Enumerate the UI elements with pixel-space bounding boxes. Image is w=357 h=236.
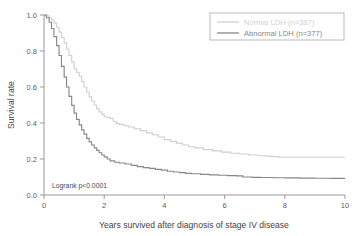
y-tick-label: 0.6 xyxy=(27,83,37,92)
x-tick-label: 10 xyxy=(341,201,349,210)
x-tick-label: 0 xyxy=(42,201,46,210)
x-axis-title: Years survived after diagnosis of stage … xyxy=(99,220,289,230)
chart-legend: Normal LDH (n=387) Abnormal LDH (n=377) xyxy=(210,13,344,40)
x-tick-label: 8 xyxy=(283,201,287,210)
y-tick-label: 0.0 xyxy=(27,191,37,200)
y-axis-title: Survival rate xyxy=(6,81,16,129)
legend-label-normal-ldh: Normal LDH (n=387) xyxy=(244,18,315,27)
x-axis-ticks: 0246810 xyxy=(42,195,349,210)
y-axis-ticks: 0.00.20.40.60.81.0 xyxy=(27,11,44,200)
x-tick-label: 6 xyxy=(223,201,227,210)
y-tick-label: 0.4 xyxy=(27,119,37,128)
y-tick-label: 0.8 xyxy=(27,47,37,56)
y-tick-label: 0.2 xyxy=(27,155,37,164)
x-tick-label: 4 xyxy=(162,201,166,210)
x-tick-label: 2 xyxy=(102,201,106,210)
y-tick-label: 1.0 xyxy=(27,11,37,20)
legend-label-abnormal-ldh: Abnormal LDH (n=377) xyxy=(244,29,323,38)
survival-curve-figure: 0.00.20.40.60.81.0 0246810 Logrank p<0.0… xyxy=(0,0,357,236)
kaplan-meier-plot: 0.00.20.40.60.81.0 0246810 Logrank p<0.0… xyxy=(0,0,357,236)
logrank-annotation: Logrank p<0.0001 xyxy=(52,182,107,190)
